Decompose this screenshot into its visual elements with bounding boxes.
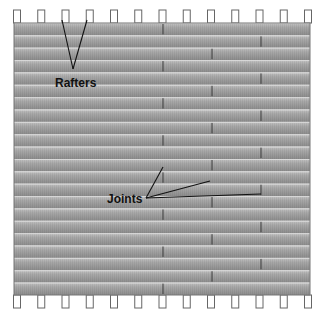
rafter-end [14,295,21,308]
rafter-end [232,295,239,308]
rafter-end [62,10,69,23]
rafter-end [280,10,287,23]
rafter-end [38,10,45,23]
rafter-end [305,295,312,308]
rafters-label: Rafters [55,76,96,90]
diagram-canvas [0,0,322,318]
rafter-end [135,295,142,308]
rafter-end [111,10,118,23]
rafter-end [62,295,69,308]
rafter-end [305,10,312,23]
rafter-end [256,295,263,308]
rafter-end [159,10,166,23]
rafter-bottoms [14,295,312,308]
rafter-end [232,10,239,23]
sheathing-boards [14,23,310,295]
joints-label: Joints [107,192,142,206]
rafter-end [256,10,263,23]
rafter-end [111,295,118,308]
rafter-end [208,10,215,23]
rafter-end [14,10,21,23]
rafter-end [135,10,142,23]
rafter-end [86,10,93,23]
rafter-tops [14,10,312,23]
rafter-end [183,10,190,23]
rafter-end [208,295,215,308]
rafter-end [86,295,93,308]
rafter-end [38,295,45,308]
rafter-end [159,295,166,308]
rafter-end [183,295,190,308]
rafter-end [280,295,287,308]
